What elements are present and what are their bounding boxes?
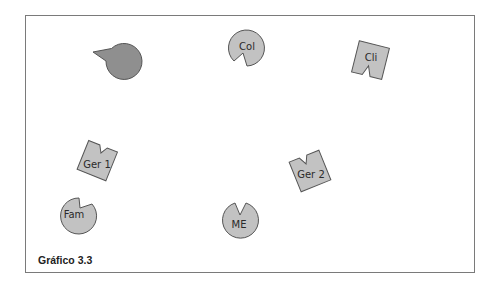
shape-unlabeled: [93, 43, 142, 79]
notched-circle-dark: [93, 43, 142, 79]
shape-col: Col: [228, 30, 264, 66]
label-cli: Cli: [365, 52, 378, 63]
label-ger2: Ger 2: [297, 169, 325, 180]
shape-me: ME: [222, 203, 258, 238]
diagram-canvas: Col Cli Ger 1 Ger 2 Fam ME: [0, 0, 503, 295]
figure-caption: Gráfico 3.3: [38, 254, 92, 266]
label-col: Col: [239, 41, 255, 52]
label-ger1: Ger 1: [83, 159, 111, 170]
label-me: ME: [232, 219, 247, 230]
label-fam: Fam: [64, 209, 85, 220]
shape-fam: Fam: [61, 198, 97, 234]
